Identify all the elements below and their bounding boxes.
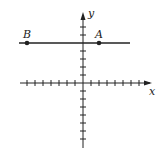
y-axis-label: y (87, 7, 95, 20)
y-axis (80, 12, 86, 148)
point-a (97, 41, 102, 46)
x-axis-label: x (149, 85, 156, 98)
y-axis-arrow-icon (81, 12, 86, 20)
point-b-label: B (22, 28, 31, 41)
point-b (25, 41, 30, 46)
coordinate-plane-diagram: x y B A (0, 0, 161, 156)
x-axis (20, 80, 152, 86)
point-a-label: A (94, 28, 103, 41)
